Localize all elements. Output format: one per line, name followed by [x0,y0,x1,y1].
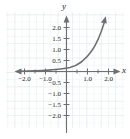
y-tick-label: 1.5 [52,35,61,43]
y-tick-label: 2.0 [52,24,61,32]
y-tick-label: −0.5 [48,79,61,87]
x-tick-label: −2.0 [18,75,31,83]
x-axis-label: x [122,66,126,75]
y-axis-label: y [62,2,66,11]
y-tick-label: 0.5 [52,57,61,65]
grid-major [6,12,124,128]
graph-figure: −2.0 −1.0 1.0 2.0 2.0 1.5 1.0 0.5 −0.5 −… [0,0,130,139]
coordinate-plane-svg: −2.0 −1.0 1.0 2.0 2.0 1.5 1.0 0.5 −0.5 −… [0,0,130,139]
y-tick-label: 1.0 [52,46,61,54]
y-tick-label: −1.0 [48,90,61,98]
y-tick-label: −2.0 [48,112,61,120]
y-tick-label: −1.5 [48,101,61,109]
x-tick-label: 2.0 [104,75,113,83]
x-tick-label: 1.0 [83,75,92,83]
